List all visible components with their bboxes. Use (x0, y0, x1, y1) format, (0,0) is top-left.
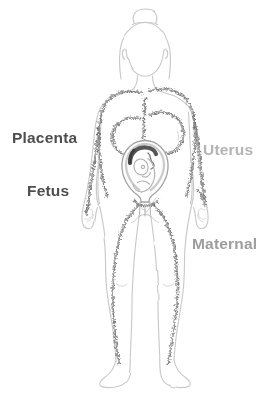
right-leg-inner-outline (151, 217, 160, 356)
left-leg-inner-outline (130, 217, 139, 356)
placenta-label: Placenta (12, 129, 77, 147)
hair-outline (119, 23, 170, 80)
neck-left-outline (131, 76, 138, 91)
left-ear-outline (122, 49, 124, 59)
face-outline (126, 49, 164, 76)
right-knee-line (163, 284, 174, 286)
hair-bun-outline (133, 9, 157, 23)
scribble-layer-fine (86, 88, 205, 363)
right-hand-outline (198, 209, 206, 222)
uterus-group (122, 141, 168, 223)
maternal-label: Maternal (192, 235, 257, 253)
scribble-stroke (152, 204, 177, 364)
fetus-label: Fetus (27, 182, 69, 200)
right-ear-outline (166, 49, 168, 59)
scribble-stroke (112, 204, 140, 364)
left-knee-line (117, 284, 128, 286)
uterus-label: Uterus (203, 141, 253, 159)
left-foot-outline (100, 357, 131, 388)
diagram-canvas: Placenta Uterus Fetus Maternal (0, 0, 271, 393)
scribble-stroke (111, 203, 139, 363)
right-foot-outline (160, 357, 191, 388)
uterus-outer-wall (122, 141, 168, 203)
